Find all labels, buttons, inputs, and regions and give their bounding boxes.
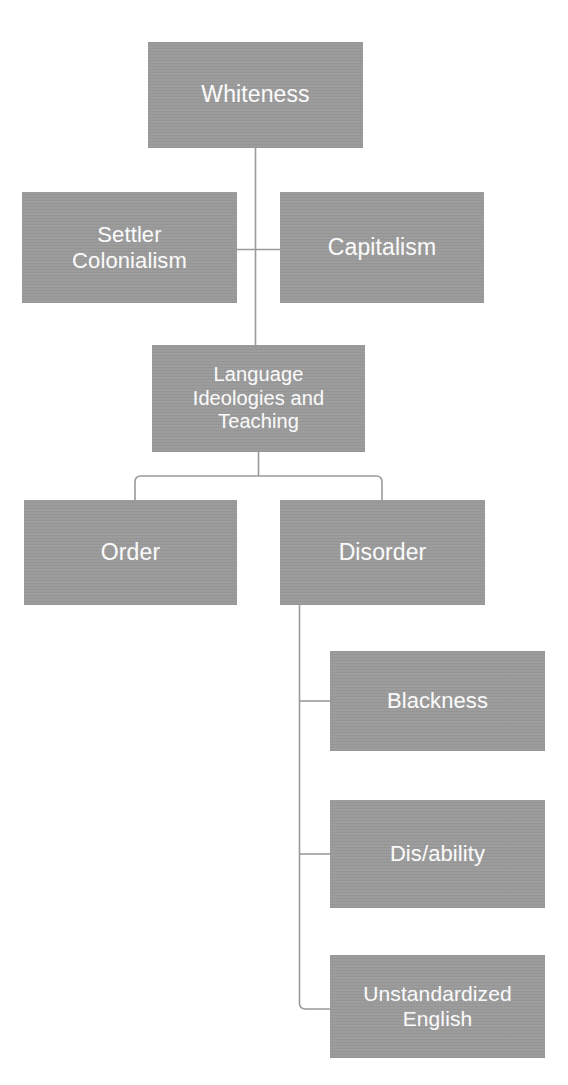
node-disability-label: Dis/ability	[390, 841, 485, 867]
node-settler-colonialism[interactable]: Settler Colonialism	[22, 192, 237, 303]
edge-disorder-trunk	[300, 605, 331, 1009]
node-disorder-label: Disorder	[339, 539, 427, 566]
node-disorder[interactable]: Disorder	[280, 500, 485, 605]
edge-language-branch-bar	[135, 476, 382, 500]
node-order-label: Order	[101, 539, 160, 566]
node-settler-colonialism-label: Settler Colonialism	[72, 222, 187, 274]
node-disability[interactable]: Dis/ability	[330, 800, 545, 908]
node-order[interactable]: Order	[24, 500, 237, 605]
concept-diagram: Whiteness Settler Colonialism Capitalism…	[0, 0, 568, 1085]
node-unstandardized-english[interactable]: Unstandardized English	[330, 955, 545, 1058]
node-capitalism[interactable]: Capitalism	[280, 192, 484, 303]
node-language-ideologies-and-teaching[interactable]: Language Ideologies and Teaching	[152, 345, 365, 452]
node-whiteness-label: Whiteness	[201, 81, 309, 108]
node-blackness[interactable]: Blackness	[330, 651, 545, 751]
node-whiteness[interactable]: Whiteness	[148, 42, 363, 148]
node-language-ideologies-and-teaching-label: Language Ideologies and Teaching	[193, 363, 325, 434]
node-capitalism-label: Capitalism	[328, 234, 436, 261]
node-blackness-label: Blackness	[387, 688, 488, 714]
node-unstandardized-english-label: Unstandardized English	[363, 982, 512, 1032]
